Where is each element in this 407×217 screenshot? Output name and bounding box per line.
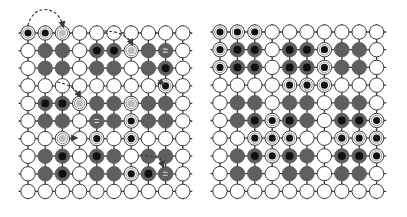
grid-node-w xyxy=(38,131,52,145)
diagram-canvas xyxy=(0,0,407,217)
grid-node-w xyxy=(300,25,314,39)
grid-node-w xyxy=(55,79,69,93)
grid-node-g xyxy=(141,114,155,128)
grid-node-d xyxy=(248,43,262,57)
grid-node-w xyxy=(317,166,331,180)
grid-node-w xyxy=(90,79,104,93)
grid-node-g xyxy=(158,96,172,110)
grid-node-w xyxy=(352,184,366,198)
grid-node-w xyxy=(90,184,104,198)
grid-node-g xyxy=(300,96,314,110)
grid-node-g xyxy=(352,96,366,110)
grid-node-w xyxy=(317,113,331,127)
grid-node-w xyxy=(107,184,121,198)
grid-node-g xyxy=(230,96,244,110)
grid-node-g xyxy=(107,114,121,128)
grid-node-w xyxy=(265,60,279,74)
grid-node-d xyxy=(55,167,69,181)
grid-node-d xyxy=(335,149,349,163)
grid-node-g xyxy=(335,166,349,180)
grid-node-w xyxy=(230,78,244,92)
grid-node-w xyxy=(21,114,35,128)
grid-node-g xyxy=(230,166,244,180)
grid-node-l xyxy=(72,96,86,110)
grid-node-w xyxy=(38,184,52,198)
grid-node-m xyxy=(90,114,104,128)
grid-node-w xyxy=(72,114,86,128)
grid-node-w xyxy=(369,184,383,198)
grid-node-w xyxy=(158,184,172,198)
grid-node-w xyxy=(176,61,190,75)
grid-node-g xyxy=(282,96,296,110)
grid-node-w xyxy=(265,25,279,39)
grid-node-w xyxy=(90,26,104,40)
grid-node-w xyxy=(21,61,35,75)
grid-node-w xyxy=(124,149,138,163)
grid-node-w xyxy=(213,184,227,198)
grid-node-g xyxy=(141,61,155,75)
grid-node-w xyxy=(230,184,244,198)
grid-node-l xyxy=(55,131,69,145)
grid-node-g xyxy=(141,149,155,163)
grid-node-w xyxy=(72,61,86,75)
grid-node-w xyxy=(107,131,121,145)
grid-node-g xyxy=(55,61,69,75)
grid-node-w xyxy=(176,43,190,57)
grid-node-w xyxy=(176,131,190,145)
grid-node-w xyxy=(21,184,35,198)
grid-node-w xyxy=(176,79,190,93)
grid-node-w xyxy=(213,166,227,180)
grid-node-r xyxy=(230,25,244,39)
grid-node-g xyxy=(107,61,121,75)
grid-node-w xyxy=(72,167,86,181)
grid-node-d xyxy=(300,43,314,57)
grid-node-w xyxy=(265,96,279,110)
grid-node-w xyxy=(107,79,121,93)
grid-node-w xyxy=(369,25,383,39)
grid-node-g xyxy=(38,61,52,75)
grid-node-g xyxy=(55,114,69,128)
grid-node-g xyxy=(230,149,244,163)
grid-node-g xyxy=(335,43,349,57)
grid-node-r xyxy=(265,113,279,127)
grid-node-g xyxy=(352,60,366,74)
grid-node-d xyxy=(352,113,366,127)
grid-node-w xyxy=(176,26,190,40)
grid-node-d xyxy=(90,149,104,163)
grid-node-g xyxy=(158,114,172,128)
grid-node-w xyxy=(38,79,52,93)
grid-node-w xyxy=(124,26,138,40)
grid-node-w xyxy=(21,79,35,93)
grid-node-r xyxy=(265,131,279,145)
grid-node-w xyxy=(265,184,279,198)
grid-node-w xyxy=(21,131,35,145)
grid-node-w xyxy=(141,131,155,145)
grid-node-w xyxy=(72,26,86,40)
grid-node-g xyxy=(335,96,349,110)
grid-node-w xyxy=(248,184,262,198)
grid-node-g xyxy=(38,167,52,181)
grid-node-r xyxy=(90,131,104,145)
grid-node-w xyxy=(265,43,279,57)
grid-node-w xyxy=(72,43,86,57)
grid-node-r xyxy=(213,25,227,39)
grid-node-w xyxy=(352,25,366,39)
grid-node-w xyxy=(282,25,296,39)
grid-node-g xyxy=(352,43,366,57)
arc-arrow-row0-icon xyxy=(28,10,63,27)
grid-node-w xyxy=(265,166,279,180)
grid-node-w xyxy=(72,184,86,198)
grid-node-w xyxy=(176,167,190,181)
grid-node-d xyxy=(230,43,244,57)
grid-node-d xyxy=(282,60,296,74)
grid-node-g xyxy=(248,96,262,110)
grid-node-d xyxy=(55,96,69,110)
grid-node-g xyxy=(300,166,314,180)
grid-node-r xyxy=(282,78,296,92)
grid-node-g xyxy=(352,166,366,180)
grid-node-m xyxy=(158,43,172,57)
grid-node-l xyxy=(124,96,138,110)
grid-node-w xyxy=(21,43,35,57)
grid-node-r xyxy=(38,26,52,40)
grid-node-g xyxy=(141,43,155,57)
